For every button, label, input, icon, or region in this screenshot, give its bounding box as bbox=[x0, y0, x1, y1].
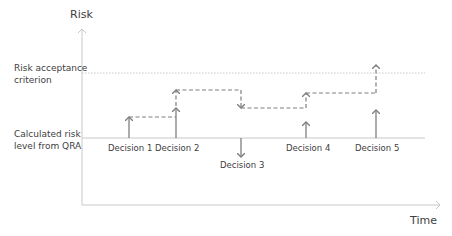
acceptance-label-2: criterion bbox=[14, 75, 52, 86]
y-axis-label: Risk bbox=[70, 9, 93, 20]
decision-3-label: Decision 3 bbox=[220, 160, 264, 171]
calculated-label-1: Calculated risk bbox=[14, 129, 81, 140]
decision-5-label: Decision 5 bbox=[355, 143, 399, 154]
x-axis-label: Time bbox=[410, 215, 437, 226]
decision-1-label: Decision 1 bbox=[108, 143, 152, 154]
decision-2-label: Decision 2 bbox=[155, 143, 199, 154]
decision-4-label: Decision 4 bbox=[286, 143, 330, 154]
calculated-label-2: level from QRA bbox=[14, 141, 81, 152]
acceptance-label-1: Risk acceptance bbox=[14, 63, 87, 74]
risk-decision-diagram bbox=[0, 0, 452, 236]
